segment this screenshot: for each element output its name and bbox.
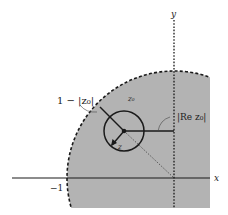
- y-axis-label: y: [170, 9, 177, 19]
- x-axis-label: x: [214, 173, 219, 183]
- shaded-region: [67, 71, 228, 215]
- diagram-canvas: 1 − |z₀| z₀ |Re z₀| z −1 x y: [0, 0, 228, 215]
- tick-label-minus-one: −1: [50, 183, 63, 193]
- label-distance-to-boundary: 1 − |z₀|: [57, 95, 94, 107]
- label-center-point: z₀: [127, 95, 135, 103]
- center-point: [122, 129, 127, 134]
- label-real-part: |Re z₀|: [177, 112, 206, 123]
- label-variable-z: z: [117, 143, 122, 151]
